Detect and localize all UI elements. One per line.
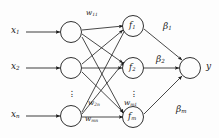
weight-label-beta1: β1 — [163, 22, 172, 32]
weight-label-w2n: w2n — [88, 99, 100, 107]
network-graphics — [0, 0, 219, 138]
hidden-layer-ellipsis: ... — [130, 88, 138, 96]
weight-label-wm1: wm1 — [124, 99, 137, 107]
weight-label-betam: βm — [176, 105, 186, 115]
input-label-xn: xn — [11, 110, 20, 120]
hidden-label-f1: f1 — [129, 21, 135, 30]
hidden-label-fm: fm — [128, 112, 136, 121]
input-arrows — [26, 32, 60, 116]
input-label-x1: x1 — [11, 26, 20, 36]
output-node — [180, 58, 201, 79]
weight-label-wmn: wmn — [85, 115, 98, 123]
weight-label-beta2: β2 — [156, 55, 165, 65]
weight-label-w11: w11 — [86, 9, 98, 17]
input-label-x2: x2 — [11, 62, 20, 72]
neural-network-figure: x1 x2 xn ... f1 f2 fm ... y w11 w2n wmn … — [0, 0, 219, 138]
hidden-label-f2: f2 — [129, 63, 135, 72]
input-nodes — [61, 22, 82, 127]
hidden-output-edges — [144, 29, 182, 114]
output-label-y: y — [206, 62, 211, 71]
input-layer-ellipsis: ... — [68, 88, 76, 96]
